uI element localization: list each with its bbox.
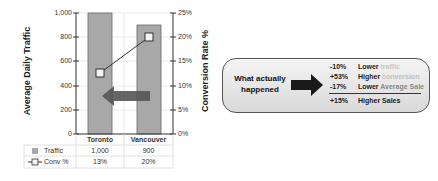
callout-heading: What actually happened (231, 73, 289, 95)
what-happened-callout: What actually happened -10% Lower traffi… (222, 58, 430, 113)
callout-divider (329, 93, 421, 94)
category-label: Toronto (76, 136, 124, 143)
table-cell: 1,000 (76, 147, 124, 154)
callout-item: -10% Lower traffic (330, 63, 400, 70)
callout-heading-line2: happened (231, 84, 289, 95)
legend-label-traffic: Traffic (44, 147, 63, 154)
marker-toronto (96, 69, 104, 77)
callout-item: -17% Lower Average Sale (330, 83, 424, 90)
traffic-legend-swatch (32, 148, 38, 154)
table-cell: 900 (124, 147, 173, 154)
table-cell: 20% (124, 158, 173, 165)
callout-total: +15% Higher Sales (330, 97, 400, 104)
callout-heading-line1: What actually (231, 73, 289, 84)
marker-vancouver (145, 33, 153, 41)
category-label: Vancouver (124, 136, 173, 143)
callout-item: +53% Higher conversion (330, 73, 419, 80)
conv-legend-marker (32, 159, 38, 165)
right-arrow-icon (291, 74, 325, 96)
legend-label-conv: Conv % (44, 158, 69, 165)
table-cell: 13% (76, 158, 124, 165)
combo-chart: Average Daily Traffic Conversion Rate % … (0, 0, 215, 181)
